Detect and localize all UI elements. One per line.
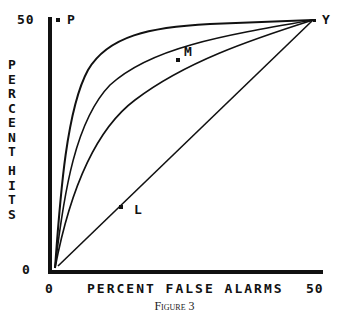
y-label-char: H bbox=[5, 164, 19, 179]
x-axis-label: PERCENT FALSE ALARMS bbox=[87, 281, 284, 296]
point-m-marker bbox=[176, 58, 180, 62]
point-p-label: P bbox=[67, 12, 76, 27]
y-label-char: T bbox=[5, 193, 19, 208]
y-tick-0: 0 bbox=[22, 262, 31, 277]
y-label-char: S bbox=[5, 208, 19, 223]
y-label-char: N bbox=[5, 131, 19, 146]
y-label-char: E bbox=[5, 116, 19, 131]
point-l-label: L bbox=[134, 202, 143, 217]
roc-chart bbox=[0, 0, 349, 326]
y-tick-50: 50 bbox=[17, 12, 35, 27]
point-y-marker bbox=[313, 19, 316, 22]
x-tick-50: 50 bbox=[306, 281, 324, 296]
point-y-label: Y bbox=[322, 12, 331, 27]
y-label-char: R bbox=[5, 87, 19, 102]
point-l-marker bbox=[119, 205, 123, 209]
y-axis-label-hits: H I T S bbox=[5, 164, 19, 222]
y-label-char: C bbox=[5, 102, 19, 117]
y-label-char: E bbox=[5, 73, 19, 88]
y-label-char: P bbox=[5, 58, 19, 73]
y-label-char: T bbox=[5, 145, 19, 160]
x-tick-0: 0 bbox=[45, 281, 54, 296]
point-m-label: M bbox=[184, 44, 193, 59]
y-label-char: I bbox=[5, 179, 19, 194]
y-axis-label-percent: P E R C E N T bbox=[5, 58, 19, 160]
point-p-marker bbox=[56, 18, 60, 22]
figure-caption: Figure 3 bbox=[0, 299, 349, 314]
